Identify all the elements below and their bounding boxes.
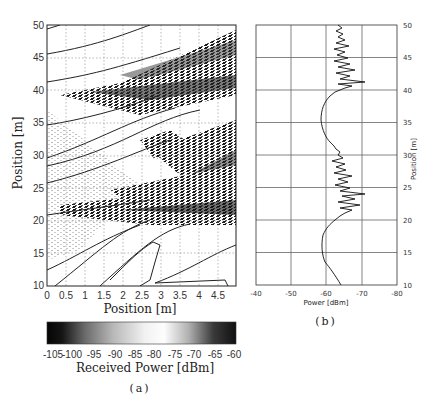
svg-text:4: 4 <box>196 290 202 301</box>
svg-text:-70: -70 <box>187 349 202 360</box>
svg-text:10: 10 <box>33 280 45 291</box>
svg-text:0.5: 0.5 <box>59 290 73 301</box>
svg-text:10: 10 <box>403 282 412 290</box>
svg-text:-60: -60 <box>227 349 242 360</box>
svg-text:45: 45 <box>403 54 412 62</box>
svg-text:-75: -75 <box>168 349 183 360</box>
svg-text:0: 0 <box>44 290 50 301</box>
svg-text:-60: -60 <box>320 290 331 298</box>
colorbar-label: Received Power [dBm] <box>60 361 230 375</box>
svg-text:4.5: 4.5 <box>211 290 225 301</box>
svg-text:1.5: 1.5 <box>97 290 111 301</box>
svg-text:-100: -100 <box>62 349 82 360</box>
x-axis-label-b: Power [dBm] <box>296 299 356 307</box>
svg-text:20: 20 <box>33 215 45 226</box>
svg-text:-80: -80 <box>147 349 162 360</box>
heatmap-panel-a: 50 45 40 35 30 25 20 15 10 0 0.5 1 1.5 2… <box>33 20 236 301</box>
svg-text:50: 50 <box>403 22 412 30</box>
svg-text:3.5: 3.5 <box>173 290 187 301</box>
svg-text:-70: -70 <box>356 290 367 298</box>
line-panel-b: -40 -50 -60 -70 -80 50 45 40 35 30 25 20… <box>250 22 412 298</box>
svg-text:2: 2 <box>120 290 126 301</box>
caption-b: (b) <box>306 315 346 328</box>
svg-text:1: 1 <box>82 290 88 301</box>
svg-text:-85: -85 <box>128 349 143 360</box>
x-axis-ticks-a: 0 0.5 1 1.5 2 2.5 3 3.5 4 4.5 <box>44 290 225 301</box>
x-axis-ticks-b: -40 -50 -60 -70 -80 <box>250 290 402 298</box>
svg-text:15: 15 <box>33 248 45 259</box>
svg-text:-50: -50 <box>285 290 296 298</box>
figure-canvas: 50 45 40 35 30 25 20 15 10 0 0.5 1 1.5 2… <box>0 0 436 415</box>
colorbar: -105 -100 -95 -90 -85 -80 -75 -70 -65 -6… <box>43 322 242 360</box>
svg-text:-65: -65 <box>208 349 223 360</box>
y-axis-ticks-a: 50 45 40 35 30 25 20 15 10 <box>33 20 45 291</box>
svg-text:40: 40 <box>403 87 412 95</box>
caption-a: (a) <box>120 382 160 395</box>
y-axis-label-a: Position [m] <box>11 113 25 193</box>
svg-text:35: 35 <box>403 119 412 127</box>
svg-text:25: 25 <box>33 183 45 194</box>
svg-text:35: 35 <box>33 117 45 128</box>
svg-text:-95: -95 <box>87 349 102 360</box>
svg-text:40: 40 <box>33 85 45 96</box>
svg-text:45: 45 <box>33 52 45 63</box>
svg-text:2.5: 2.5 <box>135 290 149 301</box>
svg-text:15: 15 <box>403 249 412 257</box>
svg-text:-105: -105 <box>43 349 63 360</box>
y-axis-label-b: Position [m] <box>410 129 418 189</box>
svg-text:-40: -40 <box>250 290 261 298</box>
x-axis-label-a: Position [m] <box>90 302 190 316</box>
svg-text:50: 50 <box>33 20 45 31</box>
svg-text:30: 30 <box>33 150 45 161</box>
svg-text:20: 20 <box>403 217 412 225</box>
svg-text:3: 3 <box>158 290 164 301</box>
svg-text:-90: -90 <box>108 349 123 360</box>
svg-text:-80: -80 <box>391 290 402 298</box>
